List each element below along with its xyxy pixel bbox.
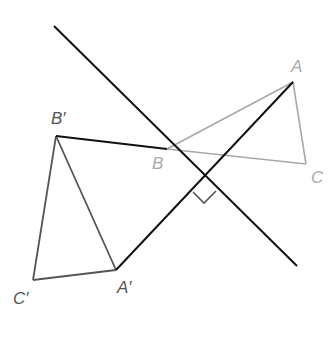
reflection-diagram: A B C A′ B′ C′ [0, 0, 333, 340]
triangle-abc-prime [33, 136, 116, 280]
label-a-prime: A′ [116, 278, 132, 297]
segment-a-prime-b-prime [56, 136, 116, 270]
label-b-prime: B′ [51, 109, 66, 128]
segment-c-prime-a-prime [33, 270, 116, 280]
segment-bc [167, 149, 306, 164]
segment-a-a-prime [116, 82, 293, 270]
construction-lines [54, 26, 297, 270]
triangle-abc [167, 82, 306, 164]
label-c-prime: C′ [13, 289, 29, 308]
segment-b-prime-c-prime [33, 136, 56, 280]
right-angle-marker [193, 191, 216, 203]
segment-b-b-prime [56, 136, 167, 149]
mirror-line [54, 26, 297, 266]
segment-ab [167, 82, 293, 149]
label-a: A [290, 57, 302, 76]
label-c: C [311, 168, 324, 187]
segment-ac [293, 82, 306, 164]
label-b: B [152, 154, 163, 173]
